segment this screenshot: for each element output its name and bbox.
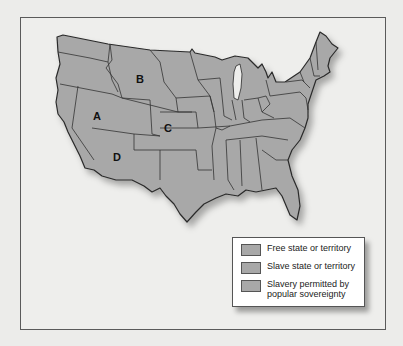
legend-label: Slave state or territory [267, 261, 355, 271]
legend-item-slave: Slave state or territory [241, 261, 364, 274]
legend-item-popular-sovereignty: Slavery permitted by popular sovereignty [241, 279, 364, 299]
legend-label: Free state or territory [267, 243, 351, 253]
legend-item-free: Free state or territory [241, 243, 364, 256]
region-label-c: C [164, 122, 172, 134]
region-label-a: A [93, 110, 101, 122]
map-legend: Free state or territory Slave state or t… [232, 237, 365, 307]
slave-state-swatch-icon [241, 262, 261, 274]
popular-sovereignty-swatch-icon [241, 280, 261, 292]
us-outline [56, 32, 338, 222]
region-label-d: D [113, 151, 121, 163]
free-state-swatch-icon [241, 244, 261, 256]
legend-label: Slavery permitted by popular sovereignty [267, 279, 362, 299]
region-label-b: B [136, 73, 144, 85]
